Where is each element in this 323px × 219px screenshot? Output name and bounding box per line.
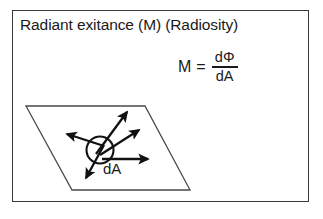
surface-emission-diagram xyxy=(12,92,212,202)
formula-fraction: dΦ dA xyxy=(212,50,238,84)
formula-equals-sign: = xyxy=(196,58,205,76)
surface-parallelogram xyxy=(26,106,190,190)
formula-denominator: dA xyxy=(214,68,236,84)
surface-area-label: dA xyxy=(103,160,121,177)
formula-radiant-exitance: M = dΦ dA xyxy=(178,50,238,84)
figure-title: Radiant exitance (M) (Radiosity) xyxy=(20,16,238,34)
formula-numerator: dΦ xyxy=(213,50,237,66)
formula-lhs: M xyxy=(178,58,191,76)
figure-root: Radiant exitance (M) (Radiosity) M = dΦ … xyxy=(0,0,323,219)
